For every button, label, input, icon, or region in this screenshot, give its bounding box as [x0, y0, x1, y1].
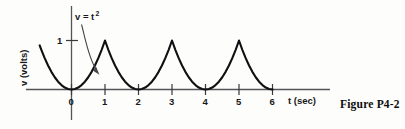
figure-page: v = t 2 0 1 2 3 4 5 6 1 t (sec) v (volts… — [0, 0, 405, 129]
figure-caption: Figure P4-2 — [340, 98, 400, 110]
equation-exponent: 2 — [96, 10, 100, 17]
x-axis-title: t (sec) — [288, 95, 316, 106]
equation-label: v = t — [75, 11, 95, 22]
y-tick-label-1: 1 — [57, 35, 63, 46]
x-tick-label-0: 0 — [69, 96, 74, 107]
x-tick-label-5: 5 — [236, 96, 242, 107]
x-tick-label-6: 6 — [270, 96, 275, 107]
waveform-curve — [40, 41, 273, 90]
x-tick-label-4: 4 — [203, 96, 209, 107]
x-tick-label-1: 1 — [102, 96, 108, 107]
x-tick-label-2: 2 — [136, 96, 141, 107]
annotation-leader-line — [82, 25, 97, 70]
y-axis-title: v (volts) — [18, 50, 29, 86]
x-tick-label-3: 3 — [169, 96, 174, 107]
